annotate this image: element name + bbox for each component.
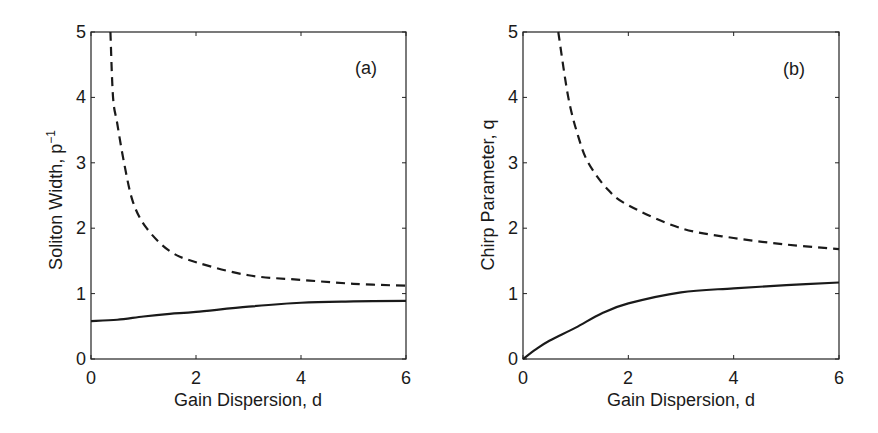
ytick-label: 1 xyxy=(508,285,518,303)
ytick-label: 5 xyxy=(508,23,518,41)
solid-curve xyxy=(523,282,839,359)
ytick-label: 2 xyxy=(508,219,518,237)
ytick-label: 0 xyxy=(508,350,518,368)
x-axis-label: Gain Dispersion, d xyxy=(607,390,755,411)
panel-b: 0 2 4 6 0 1 2 3 4 5 Gain Dispersion, d C… xyxy=(0,0,878,433)
panel-tag: (b) xyxy=(783,59,805,80)
plot-area-b xyxy=(0,0,878,433)
xtick-label: 6 xyxy=(834,369,844,387)
xtick-label: 2 xyxy=(623,369,633,387)
xtick-label: 4 xyxy=(728,369,738,387)
ytick-label: 4 xyxy=(508,88,518,106)
axes-frame xyxy=(523,32,839,359)
y-axis-label: Chirp Parameter, q xyxy=(478,119,499,270)
xtick-label: 0 xyxy=(518,369,528,387)
ytick-label: 3 xyxy=(508,154,518,172)
